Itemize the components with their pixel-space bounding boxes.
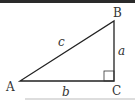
side-a-label: a xyxy=(118,44,125,58)
side-b-label: b xyxy=(62,85,70,99)
side-c-label: c xyxy=(58,35,65,49)
vertex-c-label: C xyxy=(112,84,121,98)
vertex-b-label: B xyxy=(113,6,122,20)
vertex-a-label: A xyxy=(5,80,15,94)
right-angle-marker xyxy=(104,71,114,81)
triangle xyxy=(20,21,114,81)
triangle-diagram: A B C c a b xyxy=(0,0,135,107)
